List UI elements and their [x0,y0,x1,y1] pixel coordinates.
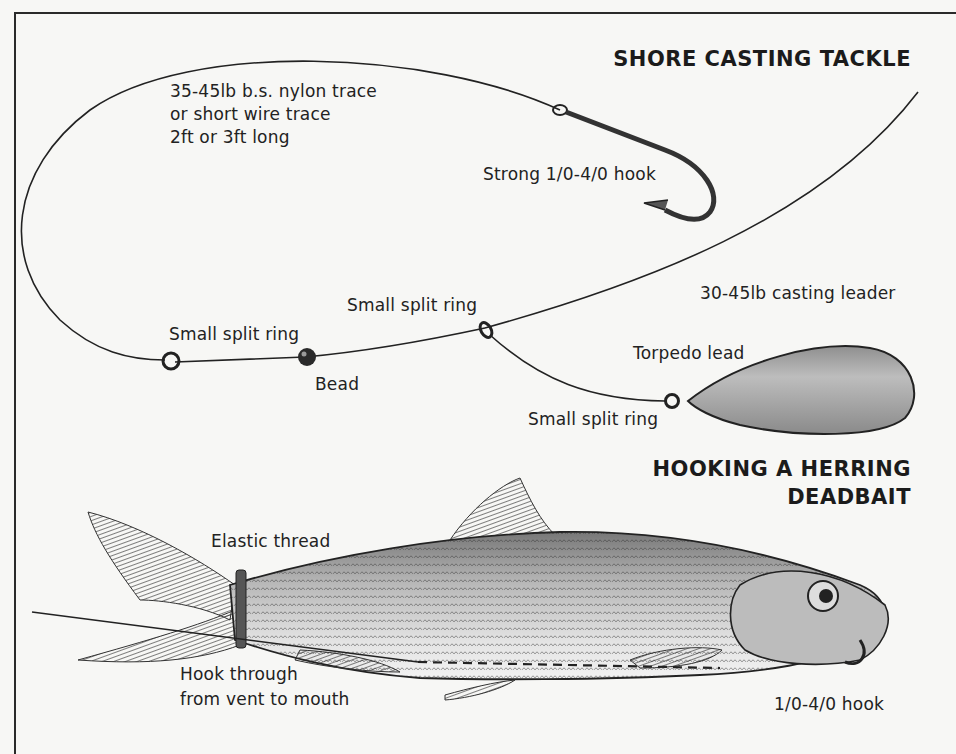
split-ring-middle-label: Small split ring [347,294,477,316]
split-ring-left-icon [163,353,179,369]
split-ring-lead-label: Small split ring [528,408,658,430]
bead-icon [298,348,316,366]
elastic-thread-label: Elastic thread [211,530,330,552]
tackle-title: SHORE CASTING TACKLE [613,46,911,72]
bait-hook-label: 1/0-4/0 hook [774,693,884,715]
herring-title-line1: HOOKING A HERRING [653,456,911,482]
trace-label-line2: or short wire trace [170,103,331,125]
split-ring-middle-icon [478,321,495,340]
bead-label: Bead [315,373,359,395]
trace-label-line1: 35-45lb b.s. nylon trace [170,80,377,102]
torpedo-lead-label: Torpedo lead [633,342,745,364]
split-ring-lead-icon [666,395,679,408]
split-ring-left-label: Small split ring [169,323,299,345]
hook-label: Strong 1/0-4/0 hook [483,163,656,185]
herring-deadbait-icon [32,478,888,700]
hook-through-label-line2: from vent to mouth [180,688,350,710]
trace-label-line3: 2ft or 3ft long [170,126,290,148]
herring-title-line2: DEADBAIT [787,484,911,510]
leader-label: 30-45lb casting leader [700,282,896,304]
hook-through-label-line1: Hook through [180,663,298,685]
